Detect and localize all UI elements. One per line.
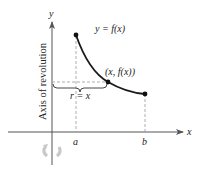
y-axis-label: y	[48, 8, 54, 19]
x-axis-label: x	[186, 126, 192, 137]
point-x-fx	[106, 80, 111, 85]
shell-method-diagram: y x Axis of revolution y = f(x) (x, f(x)…	[0, 0, 204, 175]
point-b-end	[143, 92, 148, 97]
curve-label: y = f(x)	[94, 23, 126, 35]
axis-of-revolution-caption: Axis of revolution	[37, 42, 48, 120]
point-label: (x, f(x))	[105, 66, 136, 78]
b-label: b	[142, 136, 147, 147]
point-a-top	[74, 33, 79, 38]
a-label: a	[73, 136, 78, 147]
curve-f	[76, 35, 145, 94]
radius-label: r = x	[70, 90, 91, 101]
dashed-guides	[52, 36, 145, 132]
